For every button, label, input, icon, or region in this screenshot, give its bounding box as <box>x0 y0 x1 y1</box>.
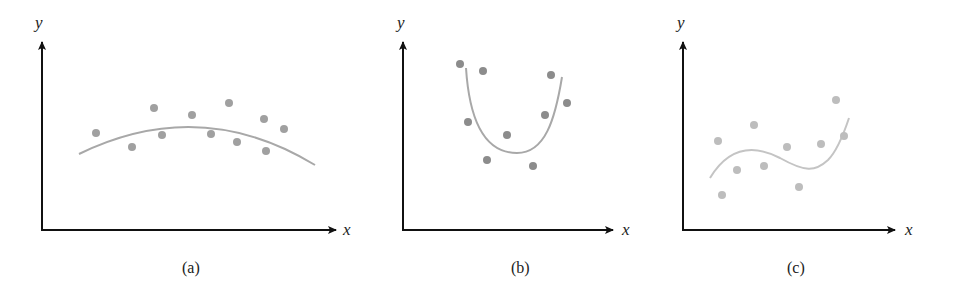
x-axis-label: x <box>342 220 351 239</box>
fit-curve <box>466 68 562 153</box>
fit-curve <box>710 118 849 178</box>
panel-b: y x (b) <box>395 13 630 277</box>
figure: y x (a) y x (b) y x <box>0 0 956 286</box>
fit-curve <box>79 127 315 165</box>
panel-caption: (c) <box>787 259 805 277</box>
y-axis-label: y <box>675 13 685 32</box>
panel-caption: (b) <box>511 259 530 277</box>
x-axis-label: x <box>621 220 630 239</box>
y-axis-label: y <box>33 13 43 32</box>
data-points <box>714 96 848 199</box>
panel-c: y x (c) <box>675 13 913 277</box>
y-axis-label: y <box>395 13 405 32</box>
panel-a: y x (a) <box>33 13 351 277</box>
panel-caption: (a) <box>182 259 200 277</box>
x-axis-label: x <box>904 220 913 239</box>
